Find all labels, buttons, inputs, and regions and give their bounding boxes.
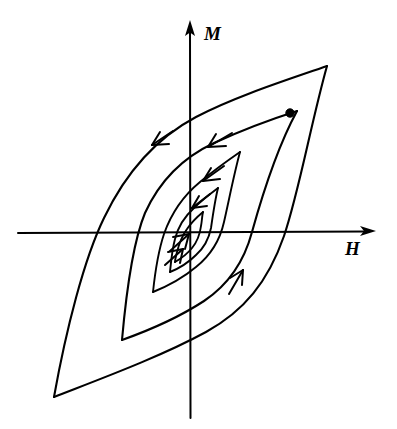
third-loop-descending-branch — [153, 152, 240, 292]
hysteresis-figure: M H — [0, 0, 397, 429]
magnetization-axis-label: M — [204, 24, 221, 43]
arrowheads-group — [152, 131, 243, 294]
field-axis — [18, 226, 376, 236]
field-axis-label: H — [345, 239, 360, 258]
descending-arrow-third-icon — [203, 166, 224, 181]
ascending-arrow-inner-icon — [170, 234, 189, 251]
third-loop-ascending-branch — [153, 152, 240, 292]
field-axis-line — [18, 232, 366, 234]
descending-arrow-inner-icon — [192, 194, 210, 208]
fourth-loop — [170, 188, 218, 272]
ascending-arrow-outer-icon — [229, 270, 243, 294]
hysteresis-plot-svg — [0, 0, 397, 429]
third-loop — [153, 152, 240, 292]
descending-arrow-second-icon — [208, 133, 232, 147]
descending-arrow-outer-icon — [152, 131, 173, 145]
magnetization-axis — [185, 20, 195, 418]
state-point-dot[interactable] — [286, 109, 294, 117]
ascending-arrow-second-icon — [165, 249, 183, 265]
